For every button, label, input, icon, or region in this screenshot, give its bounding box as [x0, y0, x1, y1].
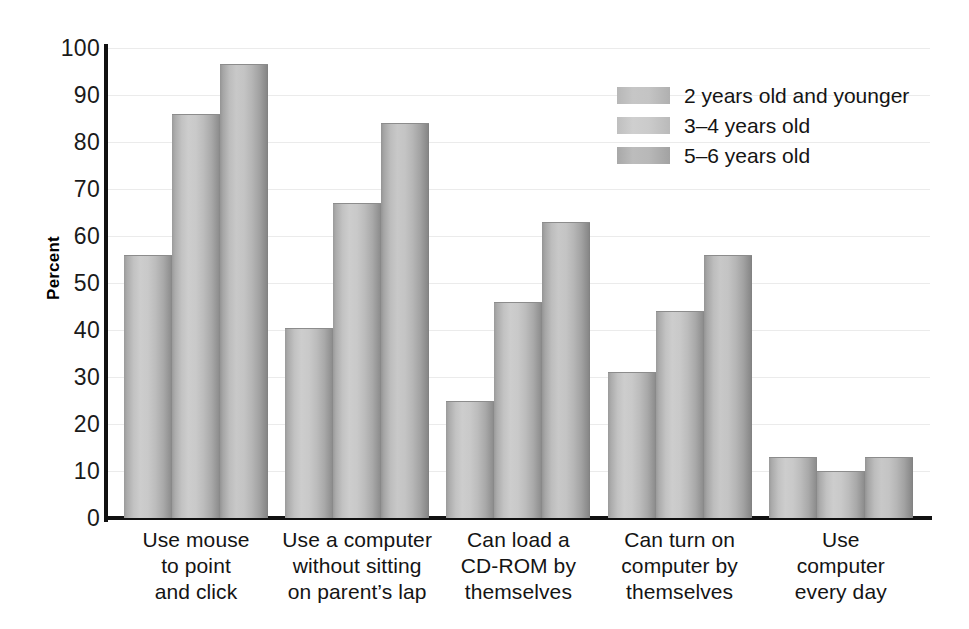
legend-item: 2 years old and younger	[617, 82, 909, 108]
legend-label: 2 years old and younger	[684, 85, 909, 106]
bar	[333, 203, 381, 518]
legend-item: 3–4 years old	[617, 112, 909, 138]
x-axis-category-label: Usecomputerevery day	[731, 527, 951, 605]
y-axis-tick-label: 80	[38, 131, 100, 154]
bar	[542, 222, 590, 518]
legend-item: 5–6 years old	[617, 142, 909, 168]
y-axis-tick-label: 20	[38, 413, 100, 436]
legend: 2 years old and younger3–4 years old5–6 …	[617, 82, 909, 172]
bar	[172, 114, 220, 518]
bar	[494, 302, 542, 518]
category-label-line: Use	[731, 527, 951, 553]
bar	[817, 471, 865, 518]
y-axis-tick-label: 30	[38, 366, 100, 389]
y-axis-tick-label: 70	[38, 178, 100, 201]
bar	[704, 255, 752, 518]
category-label-line: every day	[731, 579, 951, 605]
y-axis-tick-label: 10	[38, 460, 100, 483]
bar	[446, 401, 494, 519]
y-axis-tick-label: 90	[38, 84, 100, 107]
bar	[220, 64, 268, 518]
bar	[769, 457, 817, 518]
y-axis-tick-label: 100	[38, 37, 100, 60]
bar	[381, 123, 429, 518]
legend-label: 3–4 years old	[684, 115, 810, 136]
bar	[656, 311, 704, 518]
bar	[285, 328, 333, 518]
bar	[865, 457, 913, 518]
bar	[608, 372, 656, 518]
y-axis-title: Percent	[44, 208, 64, 328]
bar-chart: 1009080706050403020100 Percent Use mouse…	[0, 0, 969, 629]
legend-label: 5–6 years old	[684, 145, 810, 166]
gridline	[108, 48, 930, 49]
bar	[124, 255, 172, 518]
legend-swatch-series-1	[617, 87, 670, 104]
legend-swatch-series-2	[617, 117, 670, 134]
legend-swatch-series-3	[617, 147, 670, 164]
category-label-line: computer	[731, 553, 951, 579]
